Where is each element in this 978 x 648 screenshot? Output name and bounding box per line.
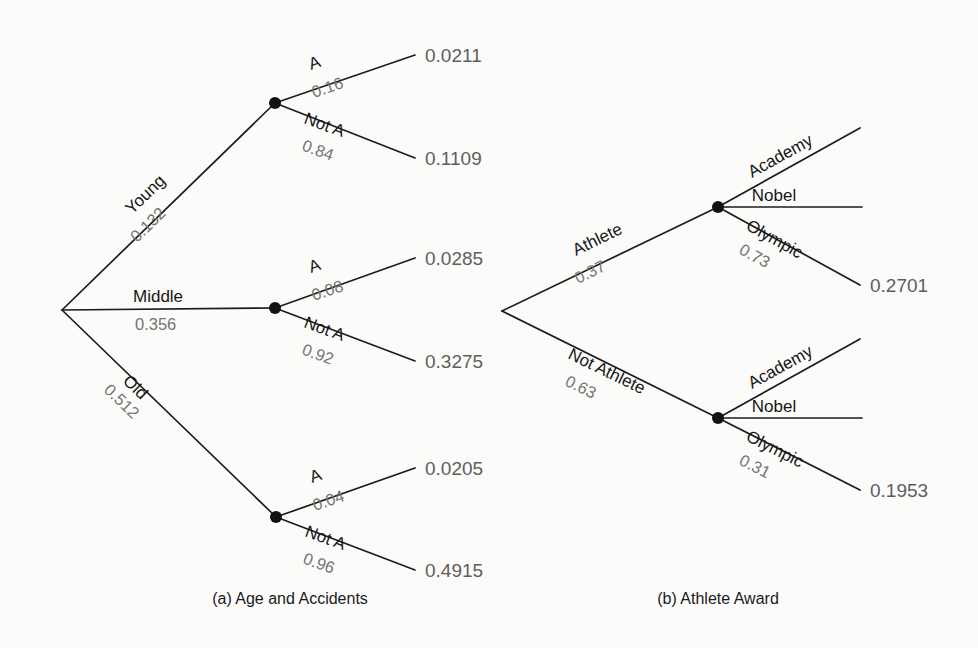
caption-panel-a: (a) Age and Accidents: [212, 590, 368, 607]
label-not-athlete-academy: Academy: [745, 341, 817, 392]
node-athlete: [712, 201, 724, 213]
prob-young-a: 0.16: [309, 73, 345, 100]
node-old: [270, 511, 282, 523]
label-young-a: A: [306, 52, 324, 74]
leaf-middle-a: 0.0285: [425, 248, 483, 269]
prob-athlete: 0.37: [571, 256, 608, 286]
prob-middle-nota: 0.92: [300, 340, 336, 368]
leaf-old-a: 0.0205: [425, 458, 483, 479]
leaf-athlete-olympic: 0.2701: [870, 275, 928, 296]
prob-old-a: 0.04: [310, 486, 346, 513]
prob-middle: 0.356: [135, 315, 176, 333]
edge-root-old: [62, 310, 276, 517]
prob-young-nota: 0.84: [300, 136, 336, 164]
leaf-young-nota: 0.1109: [425, 148, 482, 169]
label-athlete-academy: Academy: [745, 130, 817, 181]
caption-panel-b: (b) Athlete Award: [657, 590, 779, 607]
figure-canvas: Young 0.132 Middle 0.356 Old 0.512 A 0.1…: [0, 0, 978, 648]
prob-middle-a: 0.08: [309, 276, 345, 303]
node-young: [269, 97, 281, 109]
label-middle-a: A: [306, 255, 324, 277]
node-not-athlete: [712, 412, 724, 424]
prob-old-nota: 0.96: [301, 549, 337, 577]
leaf-not-athlete-olympic: 0.1953: [870, 480, 928, 501]
leaf-young-a: 0.0211: [425, 45, 482, 66]
edge-root-young: [62, 103, 275, 310]
edge-middle-a: [275, 258, 415, 308]
prob-not-athlete: 0.63: [563, 372, 600, 402]
label-athlete-nobel: Nobel: [752, 186, 796, 205]
leaf-middle-nota: 0.3275: [425, 351, 483, 372]
panel-a-age-and-accidents: Young 0.132 Middle 0.356 Old 0.512 A 0.1…: [62, 45, 483, 607]
edge-middle-nota: [275, 308, 415, 361]
edge-old-a: [276, 468, 415, 517]
panel-b-athlete-award: Athlete 0.37 Not Athlete 0.63 Academy No…: [502, 128, 928, 607]
label-middle: Middle: [133, 287, 183, 306]
node-middle: [269, 302, 281, 314]
label-athlete: Athlete: [569, 219, 625, 259]
edge-young-a: [275, 55, 415, 103]
probability-tree-figure: Young 0.132 Middle 0.356 Old 0.512 A 0.1…: [0, 0, 978, 648]
label-old-a: A: [307, 465, 325, 487]
edge-root-middle: [62, 308, 275, 310]
edge-young-nota: [275, 103, 415, 158]
leaf-old-nota: 0.4915: [425, 560, 483, 581]
label-not-athlete-nobel: Nobel: [752, 397, 796, 416]
